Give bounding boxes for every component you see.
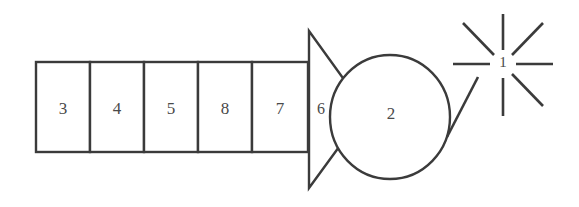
box-label-4: 8	[221, 99, 230, 118]
connector-line-circle-to-starburst	[447, 77, 478, 137]
diagram-canvas: 3 4 5 8 7 6 2 1	[0, 0, 579, 207]
starburst-ray-ne	[512, 23, 543, 55]
box-strip-group: 3 4 5 8 7	[36, 62, 308, 152]
circle-label: 2	[387, 104, 396, 123]
triangle-label: 6	[317, 100, 325, 117]
starburst-ray-se	[512, 74, 543, 106]
starburst-ray-nw	[463, 23, 494, 55]
box-label-2: 4	[113, 99, 122, 118]
box-label-5: 7	[276, 99, 285, 118]
circle-group: 2	[330, 55, 450, 179]
connector-group	[447, 77, 478, 137]
starburst-group: 1	[453, 14, 553, 116]
box-label-1: 3	[59, 99, 68, 118]
starburst-label: 1	[499, 54, 507, 70]
box-label-3: 5	[167, 99, 176, 118]
diagram-svg: 3 4 5 8 7 6 2 1	[0, 0, 579, 207]
